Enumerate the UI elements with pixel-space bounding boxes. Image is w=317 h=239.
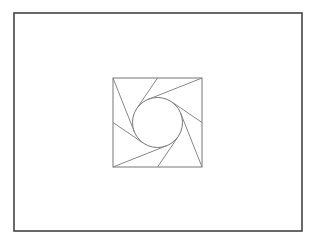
outer-frame xyxy=(14,13,302,231)
tangent-lines xyxy=(113,78,202,167)
tangent-line xyxy=(158,137,179,167)
tangent-line xyxy=(172,102,202,123)
tangent-line xyxy=(113,146,167,167)
tangent-line xyxy=(148,78,202,99)
inner-square xyxy=(113,78,202,167)
diagram-canvas xyxy=(0,0,317,239)
tangent-line xyxy=(181,113,202,167)
tangent-line xyxy=(113,123,143,144)
tangent-line xyxy=(137,78,158,108)
tangent-line xyxy=(113,78,134,132)
inscribed-circle xyxy=(133,98,183,148)
